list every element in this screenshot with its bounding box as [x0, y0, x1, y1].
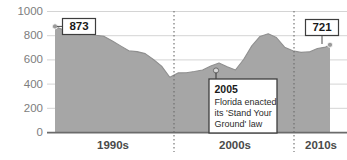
y-tick-label: 1000	[17, 5, 43, 17]
annotation-line-1: Florida enacted	[215, 97, 277, 107]
annotation-line-3: Ground' law	[215, 119, 263, 129]
annotation-anchor-marker	[213, 68, 218, 73]
area-fill	[55, 26, 330, 132]
annotation-line-2: its 'Stand Your	[215, 108, 272, 118]
callout-value-873: 873	[69, 20, 88, 32]
end-value-callout: 721	[306, 20, 339, 48]
data-point-marker-first	[52, 24, 57, 29]
x-tick-label-2010s: 2010s	[305, 139, 337, 151]
series-firearm-deaths	[55, 26, 330, 132]
y-tick-label: 600	[24, 53, 43, 65]
data-point-marker-last	[327, 42, 332, 47]
callout-value-721: 721	[312, 21, 332, 33]
y-tick-label: 800	[24, 29, 43, 41]
x-axis-ticks: 1990s 2000s 2010s	[97, 139, 337, 151]
x-tick-label-2000s: 2000s	[219, 139, 251, 151]
y-tick-label: 200	[24, 102, 43, 114]
x-tick-label-1990s: 1990s	[97, 139, 129, 151]
annotation-year: 2005	[215, 83, 239, 95]
y-tick-label: 400	[24, 78, 43, 90]
y-tick-label: 0	[37, 126, 43, 138]
area-chart: 1000 800 600 400 200 0 1990s 2000s 2010s	[0, 0, 347, 160]
chart-canvas: 1000 800 600 400 200 0 1990s 2000s 2010s	[0, 0, 347, 160]
y-axis-ticks: 1000 800 600 400 200 0	[17, 5, 43, 138]
